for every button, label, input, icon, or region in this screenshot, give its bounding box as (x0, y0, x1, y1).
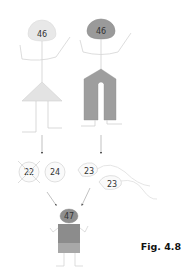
father-figure: 46 (80, 19, 131, 126)
mother-chromosome-count: 46 (37, 30, 47, 39)
offspring-figure: 47 (50, 209, 88, 266)
arrow-egg-to-offspring (47, 192, 56, 205)
sperm-1-chromosome-count: 23 (84, 167, 94, 176)
offspring-shorts (58, 243, 80, 253)
sperm-2-tail (121, 180, 157, 199)
sperm-2: 23 (99, 176, 157, 199)
father-chromosome-count: 46 (96, 27, 106, 36)
father-pants (84, 69, 116, 120)
egg-1: 22 (18, 161, 40, 183)
mother-figure: 46 (20, 20, 70, 132)
egg-2-chromosome-count: 24 (50, 168, 60, 177)
figure-label: Fig. 4.8 (141, 241, 181, 252)
offspring-chromosome-count: 47 (64, 212, 74, 221)
chromosome-nondisjunction-diagram: 46 46 22 24 23 (0, 0, 185, 278)
offspring-shirt (58, 224, 80, 243)
mother-skirt (22, 82, 62, 101)
egg-2: 24 (45, 162, 65, 182)
sperm-2-chromosome-count: 23 (107, 180, 117, 189)
arrow-sperm-to-offspring (82, 188, 90, 205)
